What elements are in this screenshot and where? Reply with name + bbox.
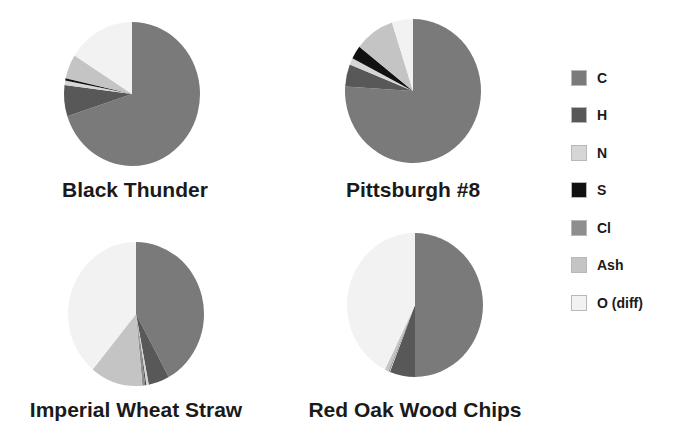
legend-item-s: S <box>571 172 643 210</box>
legend-swatch <box>571 182 587 198</box>
legend-label: Ash <box>597 257 623 273</box>
legend-item-h: H <box>571 97 643 135</box>
chart-title-black-thunder: Black Thunder <box>62 178 202 202</box>
legend-label: N <box>597 145 607 161</box>
legend-swatch <box>571 220 587 236</box>
legend-item-cl: Cl <box>571 209 643 247</box>
pie-svg <box>345 231 485 379</box>
pie-red-oak-wood-chips <box>345 231 485 379</box>
pie-imperial-wheat-straw <box>66 240 206 388</box>
legend-label: S <box>597 182 606 198</box>
legend-label: O (diff) <box>597 295 643 311</box>
pie-black-thunder <box>62 20 202 168</box>
legend-label: H <box>597 107 607 123</box>
legend-label: Cl <box>597 220 611 236</box>
chart-title-red-oak-wood-chips: Red Oak Wood Chips <box>295 398 535 422</box>
chart-title-imperial-wheat-straw: Imperial Wheat Straw <box>16 398 256 422</box>
legend-swatch <box>571 70 587 86</box>
legend-swatch <box>571 107 587 123</box>
legend-item-ash: Ash <box>571 247 643 285</box>
legend-swatch <box>571 257 587 273</box>
pie-svg <box>62 20 202 168</box>
pie-slice-c <box>415 233 483 377</box>
legend: C H N S Cl Ash O (diff) <box>571 59 643 322</box>
legend-swatch <box>571 295 587 311</box>
legend-item-n: N <box>571 134 643 172</box>
legend-item-o-diff: O (diff) <box>571 284 643 322</box>
pie-svg <box>343 17 483 165</box>
pie-pittsburgh <box>343 17 483 165</box>
chart-title-pittsburgh: Pittsburgh #8 <box>333 178 493 202</box>
legend-swatch <box>571 145 587 161</box>
legend-label: C <box>597 70 607 86</box>
legend-item-c: C <box>571 59 643 97</box>
pie-svg <box>66 240 206 388</box>
